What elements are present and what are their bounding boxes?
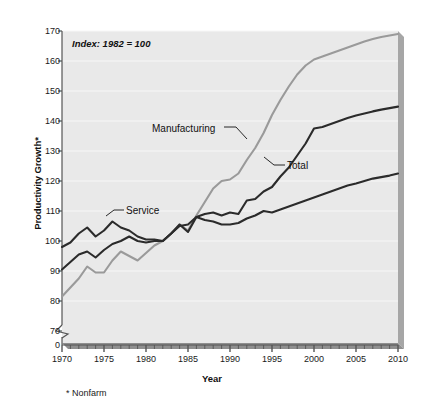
x-tick-label: 1980 — [126, 354, 166, 364]
x-tick-label: 2005 — [336, 354, 376, 364]
x-tick-label: 1990 — [210, 354, 250, 364]
x-tick-label: 1970 — [42, 354, 82, 364]
x-axis-title: Year — [0, 373, 424, 384]
x-tick-label: 1975 — [84, 354, 124, 364]
x-tick-label: 1985 — [168, 354, 208, 364]
x-tick-label: 1995 — [252, 354, 292, 364]
productivity-growth-chart: Index: 1982 = 100 Manufacturing Total Se… — [0, 0, 424, 417]
x-tick-labels: 197019751980198519901995200020052010 — [0, 0, 424, 417]
x-tick-label: 2000 — [294, 354, 334, 364]
footnote: * Nonfarm — [66, 388, 107, 398]
x-tick-label: 2010 — [378, 354, 418, 364]
